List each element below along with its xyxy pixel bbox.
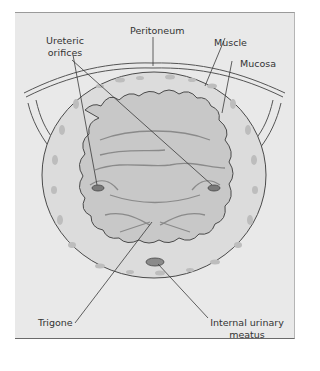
- label-meatus-line1: Internal urinary: [208, 317, 286, 329]
- label-mucosa: Mucosa: [240, 58, 276, 70]
- label-internal-urinary-meatus: Internal urinary meatus: [208, 317, 286, 341]
- label-ureteric-orifices: Ureteric orifices: [40, 35, 90, 59]
- label-ureteric-orifices-line1: Ureteric: [40, 35, 90, 47]
- label-meatus-line2: meatus: [208, 329, 286, 341]
- label-ureteric-orifices-line2: orifices: [40, 47, 90, 59]
- label-peritoneum: Peritoneum: [130, 25, 184, 37]
- label-muscle: Muscle: [214, 37, 247, 49]
- left-ureteric-orifice: [92, 185, 104, 191]
- internal-urinary-meatus: [146, 258, 164, 266]
- label-trigone: Trigone: [38, 317, 73, 329]
- right-ureteric-orifice: [208, 185, 220, 191]
